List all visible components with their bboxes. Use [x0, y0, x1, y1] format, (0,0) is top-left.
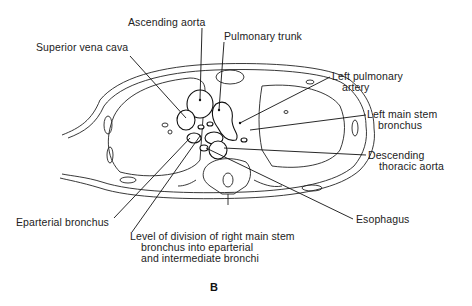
leader-pulmonary-trunk — [219, 42, 224, 110]
rib — [302, 185, 322, 191]
rib — [352, 120, 358, 136]
chest-wall-inner — [62, 70, 367, 193]
label-pulmonary-trunk: Pulmonary trunk — [224, 31, 302, 42]
label-ascending-aorta: Ascending aorta — [128, 17, 205, 28]
label-esophagus: Esophagus — [356, 214, 409, 225]
leader-superior-vena-cava — [130, 56, 186, 118]
superior-vena-cava-shape — [177, 110, 195, 130]
leader-ascending-aorta — [200, 28, 202, 100]
label-superior-vena-cava: Superior vena cava — [36, 42, 128, 53]
transverse-process — [178, 180, 196, 186]
label-eparterial-bronchus: Eparterial bronchus — [16, 217, 109, 228]
leader-end-dot — [239, 122, 241, 124]
label-left-main-stem-bronchus-line2: bronchus — [378, 120, 422, 131]
leader-end-dot — [199, 99, 201, 101]
leader-descending-thoracic-aorta — [224, 148, 366, 155]
leader-left-pulmonary-artery — [240, 77, 330, 123]
leader-end-dot — [218, 109, 220, 111]
panel-letter: B — [210, 281, 218, 293]
lung-vessel — [168, 130, 172, 134]
vertebra — [203, 159, 250, 194]
rib — [120, 177, 136, 183]
transverse-process — [254, 180, 282, 187]
mediastinal-node — [207, 122, 213, 126]
left-bronchus-branch — [241, 138, 247, 142]
descending-aorta-shape — [209, 141, 227, 159]
sternum — [216, 70, 244, 84]
leader-left-main-stem-bronchus — [250, 115, 366, 130]
anatomy-diagram: Ascending aorta Pulmonary trunk Superior… — [0, 0, 472, 306]
mediastinal-node — [198, 125, 204, 129]
label-descending-thoracic-aorta-line2: thoracic aorta — [379, 161, 444, 172]
leader-level-of-division — [132, 136, 200, 232]
lung-vessel — [162, 123, 168, 127]
lung-vessel — [284, 111, 288, 114]
chest-wall-outer — [60, 64, 374, 199]
vertebral-canal — [223, 173, 233, 187]
rib — [306, 80, 314, 84]
leader-eparterial-bronchus — [114, 138, 190, 218]
label-level-of-division-line3: and intermediate bronchi — [141, 253, 259, 264]
label-left-pulmonary-artery-line2: artery — [342, 82, 369, 93]
left-pleura — [259, 85, 345, 167]
